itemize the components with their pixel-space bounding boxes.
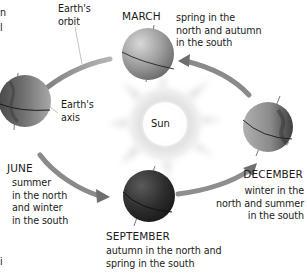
orbit-label: Earth's orbit [58, 3, 91, 28]
month-label-september: SEPTEMBER [106, 230, 170, 243]
season-description-september: autumn in the north and spring in the so… [106, 245, 221, 270]
season-description-december: winter in the north and summer in the so… [216, 185, 304, 223]
globe-december [243, 96, 293, 156]
month-label-june: JUNE [7, 162, 33, 175]
season-description-june: summer in the north and winter in the so… [12, 177, 68, 227]
month-label-december: DECEMBER [243, 168, 303, 181]
axis-label: Earth's axis [61, 99, 94, 124]
orbit-leader-line [75, 27, 82, 64]
cropped-text-fragment: l [0, 22, 3, 35]
sun-label: Sun [151, 118, 170, 131]
globe-march [122, 25, 174, 82]
globe-june [0, 73, 51, 130]
cropped-text-fragment: i [0, 256, 3, 269]
season-description-march: spring in the north and autumn in the so… [176, 12, 262, 50]
month-label-march: MARCH [122, 10, 161, 23]
orbit-arrow-december-to-march [178, 54, 249, 95]
cropped-text-fragment: n [0, 7, 6, 20]
